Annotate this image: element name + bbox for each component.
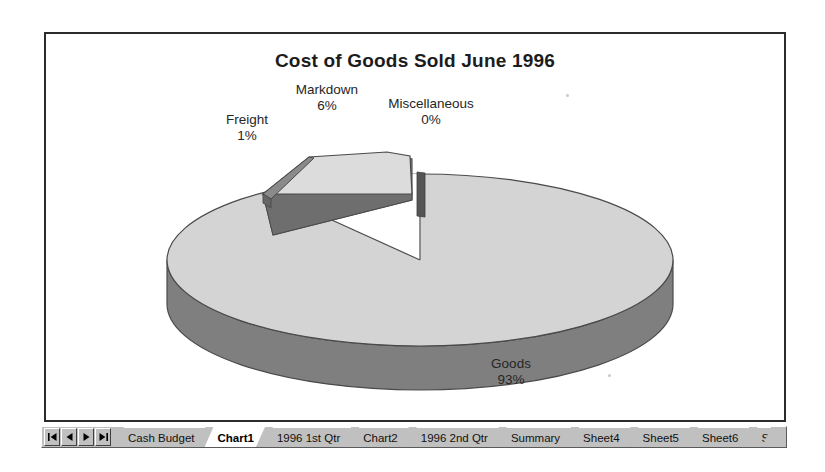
data-label-goods: Goods 93% xyxy=(446,356,576,388)
sheet-tab-cash-budget[interactable]: Cash Budget xyxy=(115,427,206,447)
data-label-goods-name: Goods xyxy=(446,356,576,372)
data-label-freight-value: 1% xyxy=(192,128,302,144)
scan-artifact-speck xyxy=(608,374,611,377)
sheet-tab-1996-2nd-qtr[interactable]: 1996 2nd Qtr xyxy=(408,427,499,447)
data-label-miscellaneous-name: Miscellaneous xyxy=(346,96,516,112)
data-label-freight: Freight 1% xyxy=(192,112,302,144)
previous-sheet-icon[interactable] xyxy=(61,428,77,446)
sheet-tab-summary[interactable]: Summary xyxy=(498,427,571,447)
sheet-tab-strip[interactable]: Cash BudgetChart11996 1st QtrChart21996 … xyxy=(113,427,786,447)
data-label-freight-name: Freight xyxy=(192,112,302,128)
pie-chart-plot-area[interactable]: Freight 1% Markdown 6% Miscellaneous 0% … xyxy=(46,34,784,420)
pie-slice-markdown-top xyxy=(263,152,412,194)
sheet-navigation-buttons[interactable] xyxy=(42,427,113,447)
data-label-miscellaneous-value: 0% xyxy=(346,112,516,128)
data-label-goods-value: 93% xyxy=(446,372,576,388)
sheet-tab-1996-1st-qtr[interactable]: 1996 1st Qtr xyxy=(264,427,351,447)
sheet-tab-s[interactable]: S xyxy=(748,427,771,447)
last-sheet-icon[interactable] xyxy=(95,428,111,446)
pie-slice-miscellaneous xyxy=(417,172,425,217)
first-sheet-icon[interactable] xyxy=(44,428,60,446)
pie-chart-graphic xyxy=(46,34,784,420)
sheet-tab-chart1[interactable]: Chart1 xyxy=(205,427,265,447)
data-label-miscellaneous: Miscellaneous 0% xyxy=(346,96,516,128)
sheet-tab-bar[interactable]: Cash BudgetChart11996 1st QtrChart21996 … xyxy=(41,426,787,448)
sheet-tab-chart2[interactable]: Chart2 xyxy=(350,427,409,447)
scan-artifact-speck xyxy=(566,94,569,97)
next-sheet-icon[interactable] xyxy=(78,428,94,446)
sheet-tab-sheet4[interactable]: Sheet4 xyxy=(570,427,630,447)
sheet-tab-sheet6[interactable]: Sheet6 xyxy=(689,427,749,447)
chart-sheet-frame[interactable]: Cost of Goods Sold June 1996 xyxy=(44,32,786,422)
sheet-tab-sheet5[interactable]: Sheet5 xyxy=(630,427,690,447)
